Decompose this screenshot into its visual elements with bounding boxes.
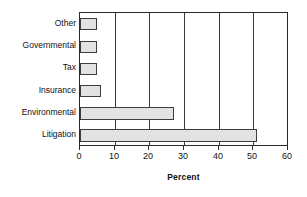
plot-area — [79, 12, 288, 146]
gridline — [184, 13, 185, 145]
bar — [80, 63, 97, 75]
bar — [80, 107, 174, 120]
gridline — [219, 13, 220, 145]
x-axis-tick — [252, 146, 253, 150]
bar — [80, 85, 101, 97]
bar — [80, 18, 97, 30]
category-label: Tax — [0, 63, 76, 72]
gridline — [253, 13, 254, 145]
category-label: Other — [0, 19, 76, 28]
x-axis-tick-label: 10 — [99, 151, 129, 161]
category-axis-labels: OtherGovernmentalTaxInsuranceEnvironment… — [0, 12, 76, 146]
x-axis-tick-label: 40 — [203, 151, 233, 161]
x-axis-tick-label: 0 — [64, 151, 94, 161]
category-label: Environmental — [0, 108, 76, 117]
x-axis-tick — [148, 146, 149, 150]
x-axis-tick-label: 30 — [168, 151, 198, 161]
x-axis-tick — [183, 146, 184, 150]
x-axis-tick-label: 20 — [133, 151, 163, 161]
category-label: Insurance — [0, 86, 76, 95]
x-axis-tick — [218, 146, 219, 150]
x-axis-tick — [114, 146, 115, 150]
category-label: Litigation — [0, 130, 76, 139]
bar-chart: OtherGovernmentalTaxInsuranceEnvironment… — [0, 0, 307, 197]
category-label: Governmental — [0, 41, 76, 50]
x-axis-tick — [79, 146, 80, 150]
bar — [80, 41, 97, 53]
gridline — [115, 13, 116, 145]
x-axis-tick — [287, 146, 288, 150]
x-axis-tick-label: 60 — [272, 151, 302, 161]
gridline — [149, 13, 150, 145]
bar — [80, 129, 257, 142]
x-axis-tick-label: 50 — [237, 151, 267, 161]
x-axis-title: Percent — [79, 172, 288, 182]
